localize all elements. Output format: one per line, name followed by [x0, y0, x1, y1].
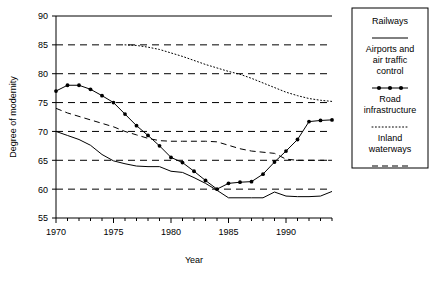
legend-label: air traffic	[373, 55, 408, 65]
legend-label: control	[376, 66, 403, 76]
data-point	[307, 120, 311, 124]
data-point	[227, 181, 231, 185]
data-point	[330, 118, 334, 122]
series-line-airports	[56, 85, 332, 189]
data-point	[146, 134, 150, 138]
line-chart-canvas: 556065707580859019701975198019851990Year…	[0, 0, 438, 282]
x-tick-label: 1975	[103, 227, 123, 237]
legend-sample-dot	[388, 86, 392, 90]
data-point	[238, 180, 242, 184]
data-point	[181, 161, 185, 165]
data-point	[89, 87, 93, 91]
data-point	[192, 169, 196, 173]
y-tick-label: 85	[38, 40, 48, 50]
series-line-road	[125, 45, 332, 102]
legend-label: Inland	[378, 133, 403, 143]
data-point	[284, 149, 288, 153]
data-point	[273, 160, 277, 164]
legend-label: Road	[379, 94, 401, 104]
legend-label: Airports and	[366, 44, 415, 54]
data-point	[135, 124, 139, 128]
data-point	[77, 83, 81, 87]
data-point	[123, 112, 127, 116]
data-point	[169, 156, 173, 160]
y-tick-label: 75	[38, 98, 48, 108]
y-tick-label: 65	[38, 156, 48, 166]
data-point	[100, 94, 104, 98]
y-tick-label: 70	[38, 127, 48, 137]
data-point	[215, 187, 219, 191]
y-tick-label: 80	[38, 69, 48, 79]
x-axis-title: Year	[185, 255, 203, 265]
y-tick-label: 90	[38, 11, 48, 21]
x-tick-label: 1980	[161, 227, 181, 237]
y-tick-label: 55	[38, 213, 48, 223]
data-point	[112, 101, 116, 105]
legend-label: waterways	[368, 144, 412, 154]
data-point	[158, 144, 162, 148]
data-point	[66, 83, 70, 87]
x-tick-label: 1985	[218, 227, 238, 237]
data-point	[296, 138, 300, 142]
legend-sample-dot	[399, 86, 403, 90]
legend-label: Railways	[372, 16, 409, 26]
legend-sample-dot	[377, 86, 381, 90]
y-axis-title: Degree of modernity	[8, 76, 18, 158]
data-point	[250, 180, 254, 184]
y-tick-label: 60	[38, 185, 48, 195]
data-point	[204, 179, 208, 183]
series-line-inland	[56, 108, 332, 160]
legend-label: infrastructure	[364, 105, 417, 115]
data-point	[319, 119, 323, 123]
x-tick-label: 1990	[276, 227, 296, 237]
data-point	[261, 172, 265, 176]
chart-figure: 556065707580859019701975198019851990Year…	[0, 0, 438, 282]
x-tick-label: 1970	[46, 227, 66, 237]
data-point	[54, 89, 58, 93]
